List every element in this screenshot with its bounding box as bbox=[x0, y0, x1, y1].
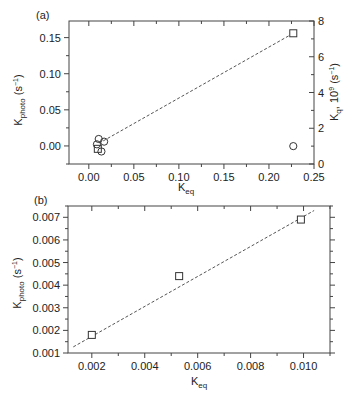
x-tick-label: 0.010 bbox=[290, 360, 318, 372]
panel-a-label: (a) bbox=[36, 9, 49, 21]
panel-a-y2-axis: 02468 bbox=[309, 15, 324, 170]
x-tick-label: 0.008 bbox=[237, 360, 265, 372]
panel-a: (a) 0.000.050.100.150.200.25 0.000.050.1… bbox=[12, 9, 343, 196]
x-tick-label: 0.25 bbox=[303, 171, 324, 183]
fit-line bbox=[73, 211, 314, 347]
x-tick-label: 0.15 bbox=[213, 171, 234, 183]
x-tick-label: 0.20 bbox=[258, 171, 279, 183]
panel-b-x-axis-label: Keq bbox=[191, 375, 207, 390]
panel-b-y-axis-label: Kphoto (s−1) bbox=[11, 257, 26, 308]
y-tick-label: 0.05 bbox=[40, 104, 61, 116]
y2-tick-label: 0 bbox=[318, 158, 324, 170]
panel-a-frame bbox=[69, 21, 314, 164]
chart-canvas: (a) 0.000.050.100.150.200.25 0.000.050.1… bbox=[0, 0, 354, 393]
x-tick-label: 0.00 bbox=[78, 171, 99, 183]
y-tick-label: 0.15 bbox=[40, 32, 61, 44]
y-tick-label: 0.003 bbox=[32, 302, 60, 314]
square-marker bbox=[176, 273, 183, 280]
y2-tick-label: 4 bbox=[318, 87, 324, 99]
figure: (a) 0.000.050.100.150.200.25 0.000.050.1… bbox=[0, 0, 354, 393]
y-tick-label: 0.005 bbox=[32, 257, 60, 269]
square-marker bbox=[290, 30, 297, 37]
x-tick-label: 0.05 bbox=[123, 171, 144, 183]
square-marker bbox=[88, 331, 95, 338]
panel-b-y-axis: 0.0010.0020.0030.0040.0050.0060.007 bbox=[32, 206, 335, 359]
square-marker bbox=[297, 216, 304, 223]
panel-a-y2-axis-label: Kq, 109 (s−1) bbox=[328, 63, 343, 121]
panel-a-x-axis: 0.000.050.100.150.200.25 bbox=[78, 21, 325, 183]
circle-marker bbox=[290, 143, 297, 150]
y-tick-label: 0.001 bbox=[32, 347, 60, 359]
panel-b-fit-line bbox=[73, 211, 314, 347]
x-tick-label: 0.006 bbox=[184, 360, 212, 372]
y2-tick-label: 8 bbox=[318, 15, 324, 27]
y2-tick-label: 6 bbox=[318, 51, 324, 63]
panel-a-x-axis-label: Keq bbox=[178, 181, 194, 196]
y-tick-label: 0.10 bbox=[40, 68, 61, 80]
y-tick-label: 0.006 bbox=[32, 234, 60, 246]
y-tick-label: 0.004 bbox=[32, 279, 60, 291]
y-tick-label: 0.007 bbox=[32, 211, 60, 223]
x-tick-label: 0.002 bbox=[78, 360, 106, 372]
panel-b-x-axis: 0.0020.0040.0060.0080.010 bbox=[78, 206, 330, 372]
y-tick-label: 0.00 bbox=[40, 140, 61, 152]
panel-b-label: (b) bbox=[34, 194, 47, 206]
panel-b: (b) 0.0020.0040.0060.0080.010 0.0010.002… bbox=[11, 194, 335, 390]
y2-tick-label: 2 bbox=[318, 122, 324, 134]
x-tick-label: 0.004 bbox=[131, 360, 159, 372]
panel-a-fit-line bbox=[103, 33, 293, 141]
fit-line bbox=[103, 33, 293, 141]
panel-a-y-axis: 0.000.050.100.15 bbox=[40, 32, 69, 164]
panel-a-y-axis-label: Kphoto (s−1) bbox=[12, 74, 27, 125]
panel-b-frame bbox=[68, 206, 330, 353]
y-tick-label: 0.002 bbox=[32, 324, 60, 336]
